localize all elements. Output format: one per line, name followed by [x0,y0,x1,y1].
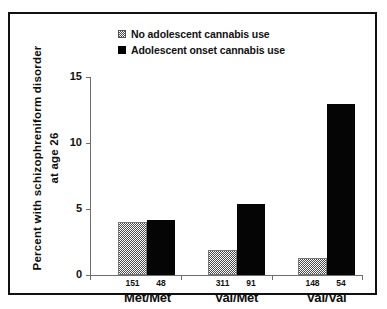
bar-valmet-adolescent-onset [237,204,265,275]
y-tick-15: 15 [86,77,91,78]
y-tick-label-15: 15 [70,70,82,82]
hatched-square-icon [118,30,126,38]
x-axis-group-label-valval: Val/Val [279,290,374,305]
legend-item-no-cannabis: No adolescent cannabis use [118,26,348,41]
cropped-header-sliver [255,0,385,6]
legend-label: Adolescent onset cannabis use [131,44,285,56]
x-tick-2 [272,275,273,280]
solid-square-icon [118,46,126,54]
x-axis-group-label-valmet: Val/Met [189,290,284,305]
y-axis-title: Percent with schizophreniform disorder a… [24,32,68,284]
n-label-valval-adolescent-onset: 54 [327,278,355,288]
bar-metmet-no-cannabis [118,222,147,275]
y-tick-label-10: 10 [70,136,82,148]
bar-metmet-adolescent-onset [147,220,175,275]
y-tick-label-0: 0 [76,268,82,280]
y-axis-title-line-1: Percent with schizophreniform disorder [31,46,43,271]
n-label-valval-no-cannabis: 148 [298,278,327,288]
x-tick-end [362,275,363,280]
y-tick-10: 10 [86,143,91,144]
chart-legend: No adolescent cannabis use Adolescent on… [118,26,348,58]
x-axis-line [90,275,363,276]
plot-area: 0 5 10 15 151 48 Met/Met 311 91 Val/Met … [90,76,368,276]
y-tick-label-5: 5 [76,202,82,214]
legend-item-adolescent-onset: Adolescent onset cannabis use [118,42,348,57]
x-tick-start [90,275,91,280]
x-axis-group-label-metmet: Met/Met [100,290,195,305]
n-label-metmet-no-cannabis: 151 [118,278,147,288]
legend-label: No adolescent cannabis use [131,28,270,40]
x-tick-1 [181,275,182,280]
y-axis-title-line-2: at age 26 [46,33,63,283]
y-tick-5: 5 [86,209,91,210]
n-label-valmet-adolescent-onset: 91 [237,278,265,288]
figure-frame: No adolescent cannabis use Adolescent on… [8,12,377,295]
bar-valval-adolescent-onset [327,104,355,275]
bar-valmet-no-cannabis [208,250,237,275]
y-axis-line [90,77,91,276]
n-label-valmet-no-cannabis: 311 [208,278,237,288]
n-label-metmet-adolescent-onset: 48 [147,278,175,288]
bar-valval-no-cannabis [298,258,327,275]
